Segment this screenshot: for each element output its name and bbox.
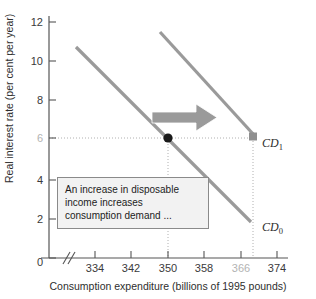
y-tick-label-6: 6 (37, 132, 43, 144)
callout-note: An increase in disposable income increas… (57, 177, 209, 229)
equilibrium-cd0-marker (163, 133, 172, 142)
equilibrium-cd1-marker (249, 133, 257, 141)
cd1-curve-label-subscript: 1 (279, 142, 283, 152)
chart-canvas: 12 10 8 6 4 2 0 334 342 350 358 366 374 … (0, 0, 316, 299)
callout-note-line-3: consumption demand ... (65, 209, 201, 222)
x-tick-label-334: 334 (86, 262, 104, 274)
cd0-curve-label: CD0 (262, 220, 283, 236)
y-tick-label-12: 12 (31, 16, 43, 28)
chart-figure: 12 10 8 6 4 2 0 334 342 350 358 366 374 … (0, 0, 316, 299)
y-tick-label-2: 2 (37, 213, 43, 225)
x-tick-label-358: 358 (195, 262, 213, 274)
cd1-curve-label: CD1 (262, 136, 283, 152)
x-tick-label-374: 374 (268, 262, 286, 274)
x-axis-title: Consumption expenditure (billions of 199… (50, 280, 287, 292)
y-tick-label-8: 8 (37, 94, 43, 106)
callout-note-line-2: income increases (65, 196, 201, 209)
y-tick-label-4: 4 (37, 174, 43, 186)
cd0-curve-label-text: CD (262, 220, 279, 234)
cd1-curve-label-text: CD (262, 136, 279, 150)
y-axis-title: Real interest rate (per cent per year) (3, 14, 15, 183)
y-tick-label-0: 0 (37, 256, 43, 268)
y-tick-label-10: 10 (31, 55, 43, 67)
x-tick-label-350: 350 (159, 262, 177, 274)
cd0-curve-label-subscript: 0 (279, 226, 283, 236)
x-tick-label-342: 342 (122, 262, 140, 274)
shift-arrow-icon (152, 104, 217, 131)
x-tick-label-366: 366 (232, 262, 250, 274)
callout-note-line-1: An increase in disposable (65, 183, 201, 196)
